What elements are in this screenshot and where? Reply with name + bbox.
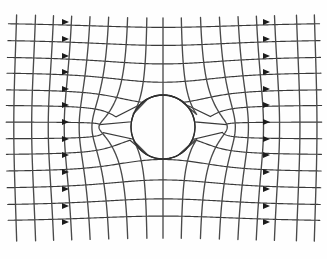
field-line <box>8 199 321 205</box>
equipotential-line <box>92 17 109 239</box>
equipotential-line <box>32 15 36 240</box>
field-diagram-figure <box>0 0 327 259</box>
field-line <box>7 180 321 188</box>
flow-direction-arrow <box>263 219 270 225</box>
flow-direction-arrow <box>263 136 270 142</box>
field-diagram-canvas <box>0 0 327 259</box>
field-line <box>7 159 321 171</box>
flow-direction-arrow <box>62 53 69 59</box>
flow-direction-arrow <box>62 36 69 42</box>
flow-direction-arrow <box>263 119 270 125</box>
field-line <box>8 216 320 220</box>
flow-direction-arrow <box>62 219 69 225</box>
flow-direction-arrow <box>62 19 69 25</box>
field-lines-group <box>6 24 322 221</box>
equipotential-lines-group <box>14 15 317 241</box>
equipotential-line <box>79 17 90 240</box>
flow-arrows-group <box>62 19 270 225</box>
field-line <box>6 95 321 117</box>
equipotential-line <box>200 18 227 239</box>
equipotential-line <box>296 15 300 241</box>
equipotential-line <box>238 17 248 240</box>
equipotential-line <box>274 16 279 241</box>
flow-direction-arrow <box>263 203 270 209</box>
flow-direction-arrow <box>263 36 270 42</box>
field-line <box>8 41 320 46</box>
flow-direction-arrow <box>263 19 270 25</box>
flow-direction-arrow <box>62 119 69 125</box>
flow-direction-arrow <box>62 203 69 209</box>
equipotential-line <box>131 18 148 238</box>
field-line <box>6 95 322 125</box>
field-line <box>7 73 321 82</box>
equipotential-line <box>314 15 317 241</box>
field-line <box>6 140 321 159</box>
equipotential-line <box>99 18 128 239</box>
flow-direction-arrow <box>263 102 270 108</box>
equipotential-line <box>14 15 17 241</box>
field-line <box>8 24 319 28</box>
flow-direction-arrow <box>62 136 69 142</box>
equipotential-line <box>256 16 263 240</box>
field-line <box>7 57 320 64</box>
field-line <box>7 90 322 102</box>
flow-direction-arrow <box>263 53 270 59</box>
equipotential-line <box>48 16 53 241</box>
field-line <box>6 132 321 159</box>
